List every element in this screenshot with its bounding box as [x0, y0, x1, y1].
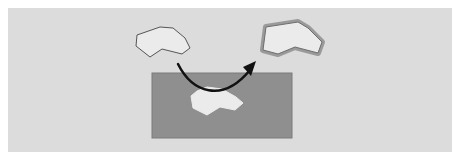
diagram-stage [0, 0, 461, 159]
diagram-canvas [0, 0, 461, 159]
